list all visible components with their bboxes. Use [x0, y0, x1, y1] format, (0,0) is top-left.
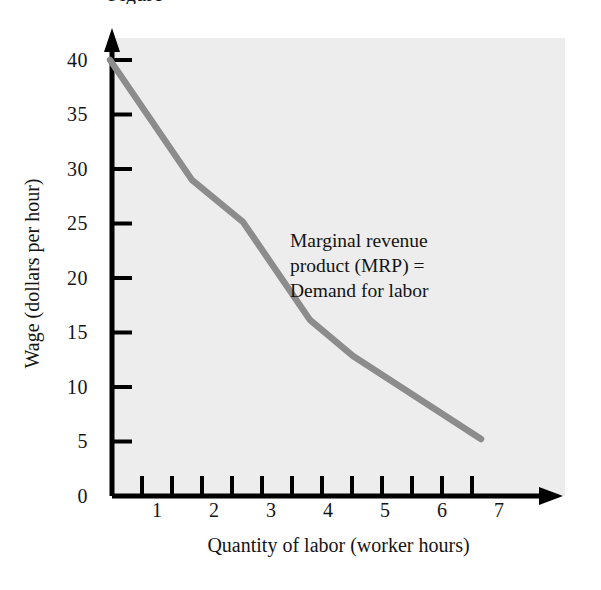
- x-tick-label-3: 3: [256, 500, 286, 520]
- x-tick-label-5: 5: [370, 500, 400, 520]
- x-tick-label-1: 1: [142, 500, 172, 520]
- y-tick-label-20: 20: [44, 268, 88, 288]
- y-tick-label-0: 0: [44, 486, 88, 506]
- y-tick-label-30: 30: [44, 159, 88, 179]
- x-tick-label-6: 6: [427, 500, 457, 520]
- y-tick-label-5: 5: [44, 431, 88, 451]
- y-axis-title: Wage (dollars per hour): [21, 139, 44, 409]
- y-tick-label-15: 15: [44, 322, 88, 342]
- y-axis-arrowhead: [104, 28, 120, 52]
- y-tick-label-25: 25: [44, 213, 88, 233]
- x-axis-arrowhead: [539, 487, 563, 505]
- x-tick-label-2: 2: [199, 500, 229, 520]
- mrp-demand-annotation: Marginal revenue product (MRP) = Demand …: [290, 228, 429, 303]
- x-tick-label-7: 7: [484, 500, 514, 520]
- x-tick-label-4: 4: [313, 500, 343, 520]
- labor-demand-chart-figure: Figure: [0, 0, 601, 590]
- x-axis-title: Quantity of labor (worker hours): [112, 534, 565, 557]
- x-tick-marks: [142, 476, 472, 496]
- y-tick-label-35: 35: [44, 104, 88, 124]
- y-tick-label-40: 40: [44, 50, 88, 70]
- y-tick-marks: [112, 60, 132, 496]
- y-tick-label-10: 10: [44, 377, 88, 397]
- y-axis: [104, 28, 120, 496]
